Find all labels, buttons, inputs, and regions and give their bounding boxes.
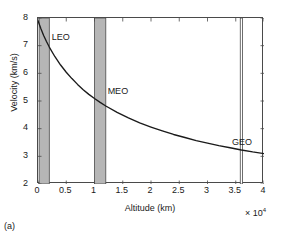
orbit-bands [39,18,242,184]
y-tick-label: 8 [2,13,28,22]
y-axis-title: Velocity (km/s) [10,23,19,143]
velocity-curve [38,21,264,154]
figure-panel: 2345678 00.511.522.533.54 LEOMEOGEO Velo… [0,0,294,240]
axis-tick-marks [38,18,264,184]
annotation-meo: MEO [108,87,129,96]
plot-area [37,17,263,183]
annotation-geo: GEO [232,138,252,147]
x-axis-multiplier-base: × 10 [245,208,263,218]
x-axis-title: Altitude (km) [37,203,263,213]
band-geo [240,18,242,184]
band-meo [95,18,106,184]
x-tick-label: 3.5 [220,186,250,195]
x-tick-label: 2 [135,186,165,195]
x-tick-label: 3 [192,186,222,195]
x-tick-label: 2.5 [163,186,193,195]
subfigure-caption: (a) [4,222,15,231]
annotation-leo: LEO [52,33,70,42]
x-axis-multiplier-exponent: 4 [263,207,266,213]
plot-canvas [38,18,264,184]
y-tick-label: 3 [2,151,28,160]
x-axis-multiplier: × 104 [245,205,266,218]
x-tick-label: 0.5 [50,186,80,195]
x-tick-label: 1 [79,186,109,195]
x-tick-label: 0 [22,186,52,195]
x-tick-label: 4 [248,186,278,195]
x-tick-label: 1.5 [107,186,137,195]
